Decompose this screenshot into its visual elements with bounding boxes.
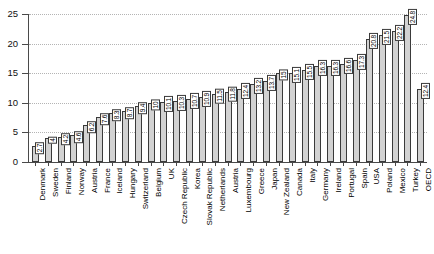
bar[interactable]: 16.3 — [314, 66, 321, 162]
x-label-slot: Denmark — [29, 168, 42, 252]
bar[interactable]: 15 — [276, 73, 283, 162]
bar[interactable]: 4.2 — [58, 137, 65, 162]
bar-slot: 11.5 — [209, 14, 222, 162]
x-tick-slot — [235, 162, 248, 166]
x-label-slot: Sweden — [42, 168, 55, 252]
bar-slot: 10 — [145, 14, 158, 162]
bar[interactable]: 7.6 — [96, 117, 103, 162]
x-label-slot: Austria — [80, 168, 93, 252]
bar[interactable]: 10.3 — [173, 101, 180, 162]
x-tick-slot — [273, 162, 286, 166]
x-tick-slot — [145, 162, 158, 166]
x-axis-tick — [266, 162, 267, 166]
bar[interactable]: 13.7 — [263, 81, 270, 162]
bar[interactable]: 9.4 — [135, 106, 142, 162]
bar[interactable]: 8.7 — [122, 111, 129, 163]
x-axis-tick — [151, 162, 152, 166]
bar-slot: 22.2 — [389, 14, 402, 162]
x-label-slot: Switzerland — [132, 168, 145, 252]
bar-slot: 6.2 — [80, 14, 93, 162]
x-tick-slot — [132, 162, 145, 166]
x-axis-tick — [240, 162, 241, 166]
bar[interactable]: 10.1 — [160, 102, 167, 162]
bar-slot: 10.7 — [183, 14, 196, 162]
x-tick-slot — [260, 162, 273, 166]
bar-slot: 16.3 — [324, 14, 337, 162]
y-axis-tick-label: 0 — [13, 157, 22, 167]
bar[interactable]: 16.3 — [327, 66, 334, 162]
bar[interactable]: 12.4 — [237, 89, 244, 162]
x-axis-tick — [138, 162, 139, 166]
bar-slot: 17.3 — [350, 14, 363, 162]
bar[interactable]: 12.4 — [417, 89, 424, 162]
x-tick-slot — [209, 162, 222, 166]
x-label-slot: Greece — [247, 168, 260, 252]
bar[interactable]: 17.3 — [353, 60, 360, 162]
x-axis-tick — [48, 162, 49, 166]
x-axis-labels: DenmarkSwedenFinlandNorwayAustriaFranceI… — [29, 168, 427, 252]
x-label-slot: Mexico — [389, 168, 402, 252]
bar[interactable]: 11.8 — [225, 92, 232, 162]
x-axis-tick — [420, 162, 421, 166]
x-axis-tick — [215, 162, 216, 166]
bar[interactable]: 15.1 — [289, 73, 296, 162]
bar-slot: 11.8 — [222, 14, 235, 162]
x-label-slot: Poland — [376, 168, 389, 252]
x-axis-tick — [112, 162, 113, 166]
x-tick-slot — [183, 162, 196, 166]
y-axis-tick — [22, 103, 29, 104]
x-tick-slot — [55, 162, 68, 166]
x-tick-slot — [312, 162, 325, 166]
x-tick-slot — [414, 162, 427, 166]
bar[interactable]: 10.9 — [199, 97, 206, 162]
bar[interactable]: 6.2 — [83, 125, 90, 162]
y-axis-tick-label: 15 — [7, 68, 22, 78]
x-label-slot: Italy — [299, 168, 312, 252]
x-axis-tick — [305, 162, 306, 166]
x-axis-tick — [253, 162, 254, 166]
x-axis-tick — [382, 162, 383, 166]
x-label-slot: Spain — [350, 168, 363, 252]
bar[interactable]: 15.5 — [302, 70, 309, 162]
x-axis-tick — [343, 162, 344, 166]
bar[interactable]: 2.7 — [32, 146, 39, 162]
x-axis-tick — [189, 162, 190, 166]
x-tick-slot — [80, 162, 93, 166]
x-axis-tick — [125, 162, 126, 166]
bar-slot: 12.4 — [235, 14, 248, 162]
x-axis-tick — [330, 162, 331, 166]
bar[interactable]: 8.3 — [109, 113, 116, 162]
x-axis-tick — [228, 162, 229, 166]
bar[interactable]: 21.5 — [379, 35, 386, 162]
y-axis-tick — [22, 14, 29, 15]
x-tick-slot — [29, 162, 42, 166]
bar[interactable]: 20.8 — [366, 39, 373, 162]
bar[interactable]: 24.8 — [404, 15, 411, 162]
bar[interactable]: 4.6 — [70, 135, 77, 162]
x-label-slot: Belgium — [145, 168, 158, 252]
bar-slot: 16.6 — [337, 14, 350, 162]
x-axis-tick — [317, 162, 318, 166]
bar[interactable]: 10.7 — [186, 99, 193, 162]
bar-value-label: 12.4 — [421, 83, 430, 99]
x-axis-tick — [99, 162, 100, 166]
bar[interactable]: 22.2 — [392, 31, 399, 162]
x-tick-slot — [106, 162, 119, 166]
bar-slot: 2.7 — [29, 14, 42, 162]
x-tick-slot — [93, 162, 106, 166]
y-axis-tick-label: 20 — [7, 39, 22, 49]
bar[interactable]: 13.2 — [250, 84, 257, 162]
bar-slot: 4.6 — [68, 14, 81, 162]
x-axis-ticks — [29, 162, 427, 166]
bar[interactable]: 4 — [45, 138, 52, 162]
bar[interactable]: 16.6 — [340, 64, 347, 162]
bar[interactable]: 11.5 — [212, 94, 219, 162]
x-label-slot: Finland — [55, 168, 68, 252]
x-axis-tick — [61, 162, 62, 166]
x-label-slot: Portugal — [337, 168, 350, 252]
bar-slot: 10.9 — [196, 14, 209, 162]
bar[interactable]: 10 — [148, 103, 155, 162]
x-axis-tick — [407, 162, 408, 166]
bar-slot: 15.5 — [299, 14, 312, 162]
bar-slot: 21.5 — [376, 14, 389, 162]
